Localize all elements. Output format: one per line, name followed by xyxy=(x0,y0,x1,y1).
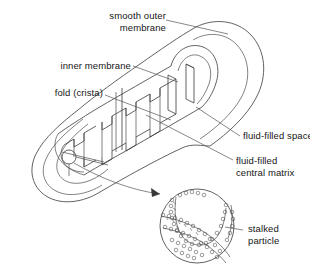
label-stalked-particle-line2: particle xyxy=(248,235,308,247)
leader-outer-membrane xyxy=(166,20,228,34)
stalked-particle-inset xyxy=(160,189,235,263)
leader-inner-membrane xyxy=(133,66,178,82)
label-fluid-filled-central-matrix: fluid-filled central matrix xyxy=(236,155,310,179)
leader-central-matrix xyxy=(146,115,233,160)
label-central-matrix-line2: central matrix xyxy=(236,167,310,179)
label-inner-membrane: inner membrane xyxy=(23,60,131,72)
label-smooth-outer-membrane-line2: membrane xyxy=(66,22,166,34)
label-fold-crista-line1: fold (crista) xyxy=(8,87,103,99)
label-smooth-outer-membrane-line1: smooth outer xyxy=(66,10,166,22)
label-fluid-filled-space-line1: fluid-filled space xyxy=(243,130,310,142)
label-smooth-outer-membrane: smooth outer membrane xyxy=(66,10,166,34)
label-stalked-particle: stalked particle xyxy=(248,223,308,247)
mitochondrion-diagram: smooth outer membrane inner membrane fol… xyxy=(0,0,310,273)
label-fluid-filled-space: fluid-filled space xyxy=(243,130,310,142)
leader-crista xyxy=(105,95,171,120)
leader-fluid-space xyxy=(196,107,240,136)
label-inner-membrane-line1: inner membrane xyxy=(23,60,131,72)
label-stalked-particle-line1: stalked xyxy=(248,223,308,235)
label-fold-crista: fold (crista) xyxy=(8,87,103,99)
label-central-matrix-line1: fluid-filled xyxy=(236,155,310,167)
smooth-outer-membrane-shape xyxy=(32,22,264,202)
callout-marker xyxy=(62,150,108,176)
